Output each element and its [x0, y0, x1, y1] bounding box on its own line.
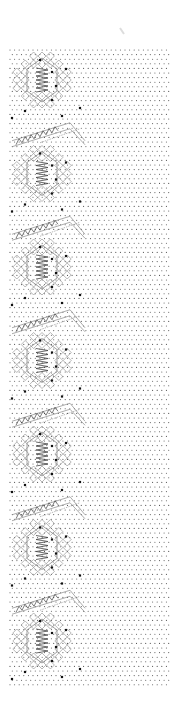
pin-marker: [55, 365, 57, 367]
pin-marker: [51, 286, 53, 288]
pin-marker: [51, 164, 53, 166]
faint-mark-icon: [120, 28, 124, 34]
pin-marker: [51, 660, 53, 662]
pin-marker: [61, 489, 63, 491]
pin-marker: [51, 379, 53, 381]
pin-marker: [79, 481, 81, 483]
pin-marker: [24, 390, 26, 392]
leaf-motif: [12, 403, 85, 427]
pin-marker: [24, 484, 26, 486]
pin-marker: [55, 552, 57, 554]
pin-marker: [61, 582, 63, 584]
leaf-motif: [12, 310, 85, 334]
pin-marker: [39, 433, 41, 435]
pin-marker: [65, 629, 67, 631]
pin-marker: [39, 339, 41, 341]
motif-unit: [12, 146, 85, 241]
pricking-dot-grid: [9, 49, 169, 685]
lace-pricking-diagram: [0, 0, 181, 718]
pin-marker: [55, 178, 57, 180]
pin-marker: [79, 200, 81, 202]
pin-marker: [51, 258, 53, 260]
pin-marker: [51, 538, 53, 540]
pin-marker: [65, 68, 67, 70]
leaf-motif: [12, 216, 85, 240]
pin-marker: [24, 577, 26, 579]
pin-marker: [65, 442, 67, 444]
pin-marker: [61, 115, 63, 117]
pin-marker: [55, 272, 57, 274]
pin-marker: [51, 71, 53, 73]
pin-marker: [11, 491, 13, 493]
pin-marker: [79, 668, 81, 670]
pin-marker: [55, 459, 57, 461]
leaf-motif: [12, 497, 85, 521]
lace-motifs: [12, 52, 85, 669]
motif-unit: [12, 333, 85, 428]
pin-marker: [61, 676, 63, 678]
pin-marker: [61, 302, 63, 304]
pin-marker: [11, 397, 13, 399]
pin-marker: [79, 294, 81, 296]
pin-marker: [24, 110, 26, 112]
pin-marker: [55, 646, 57, 648]
pin-marker: [24, 203, 26, 205]
pin-marker: [51, 473, 53, 475]
pin-marker: [65, 535, 67, 537]
pin-marker: [79, 574, 81, 576]
pin-marker: [51, 566, 53, 568]
pin-marker: [11, 304, 13, 306]
pin-marker: [39, 152, 41, 154]
pin-marker: [24, 297, 26, 299]
pin-marker: [55, 85, 57, 87]
pin-marker: [51, 192, 53, 194]
pin-marker: [39, 246, 41, 248]
leaf-motif: [12, 123, 85, 147]
pin-marker: [79, 107, 81, 109]
pin-marker: [51, 99, 53, 101]
pin-marker: [39, 620, 41, 622]
pin-marker: [11, 678, 13, 680]
pin-marker: [51, 632, 53, 634]
pin-marker: [65, 348, 67, 350]
pin-marker: [79, 387, 81, 389]
motif-unit: [13, 613, 71, 669]
pin-marker: [39, 59, 41, 61]
pin-marker: [51, 445, 53, 447]
pin-marker: [24, 671, 26, 673]
pin-marker: [61, 395, 63, 397]
motif-unit: [12, 239, 85, 334]
pin-marker: [65, 161, 67, 163]
pin-marker: [61, 208, 63, 210]
pin-marker: [11, 210, 13, 212]
pin-marker: [39, 526, 41, 528]
pin-marker: [51, 351, 53, 353]
pin-marker: [65, 255, 67, 257]
pin-marker: [11, 584, 13, 586]
motif-unit: [12, 520, 85, 615]
pin-marker: [11, 117, 13, 119]
